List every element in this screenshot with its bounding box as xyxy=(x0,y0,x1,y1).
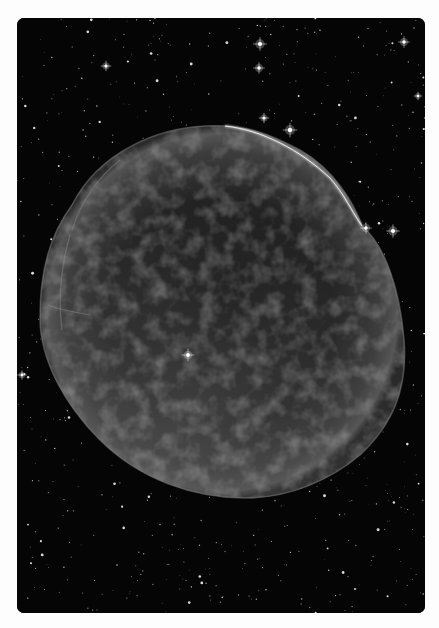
supernova-remnant-image xyxy=(17,18,425,613)
astronomy-image xyxy=(17,18,425,613)
